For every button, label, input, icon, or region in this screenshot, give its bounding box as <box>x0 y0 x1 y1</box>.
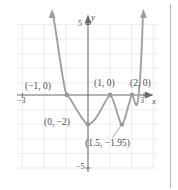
point-marker-0-minus2 <box>86 122 91 127</box>
x-tick-label-3: 3 <box>140 97 144 105</box>
page-column-rule <box>170 4 171 188</box>
point-label-2-0: (2, 0) <box>130 79 151 89</box>
y-tick-label-minus5: −5 <box>76 163 85 171</box>
point-label-1p5-minus1p95: (1.5, −1.95) <box>85 139 130 149</box>
graph-canvas <box>0 0 178 190</box>
point-label-1-0: (1, 0) <box>94 79 115 89</box>
leader-line-minimum <box>113 127 121 138</box>
point-marker-2-0 <box>130 93 135 98</box>
curve-path <box>49 9 147 125</box>
polynomial-graph-figure: (−1, 0) (0, −2) (1, 0) (2, 0) (1.5, −1.9… <box>0 0 178 190</box>
point-marker-minus1-0 <box>65 93 70 98</box>
y-axis-arrow <box>85 16 90 23</box>
y-axis-label: y <box>91 13 95 22</box>
x-tick-label-minus3: −3 <box>17 97 26 105</box>
point-label-minus1-0: (−1, 0) <box>25 82 51 92</box>
point-label-0-minus2: (0, −2) <box>44 118 70 128</box>
point-marker-1p5-minus1p95 <box>120 122 125 127</box>
x-axis-label: x <box>152 97 156 106</box>
y-tick-label-5: 5 <box>78 20 82 28</box>
right-branch-arrow <box>140 9 147 18</box>
left-branch-arrow <box>49 9 56 18</box>
point-marker-1-0 <box>108 93 113 98</box>
